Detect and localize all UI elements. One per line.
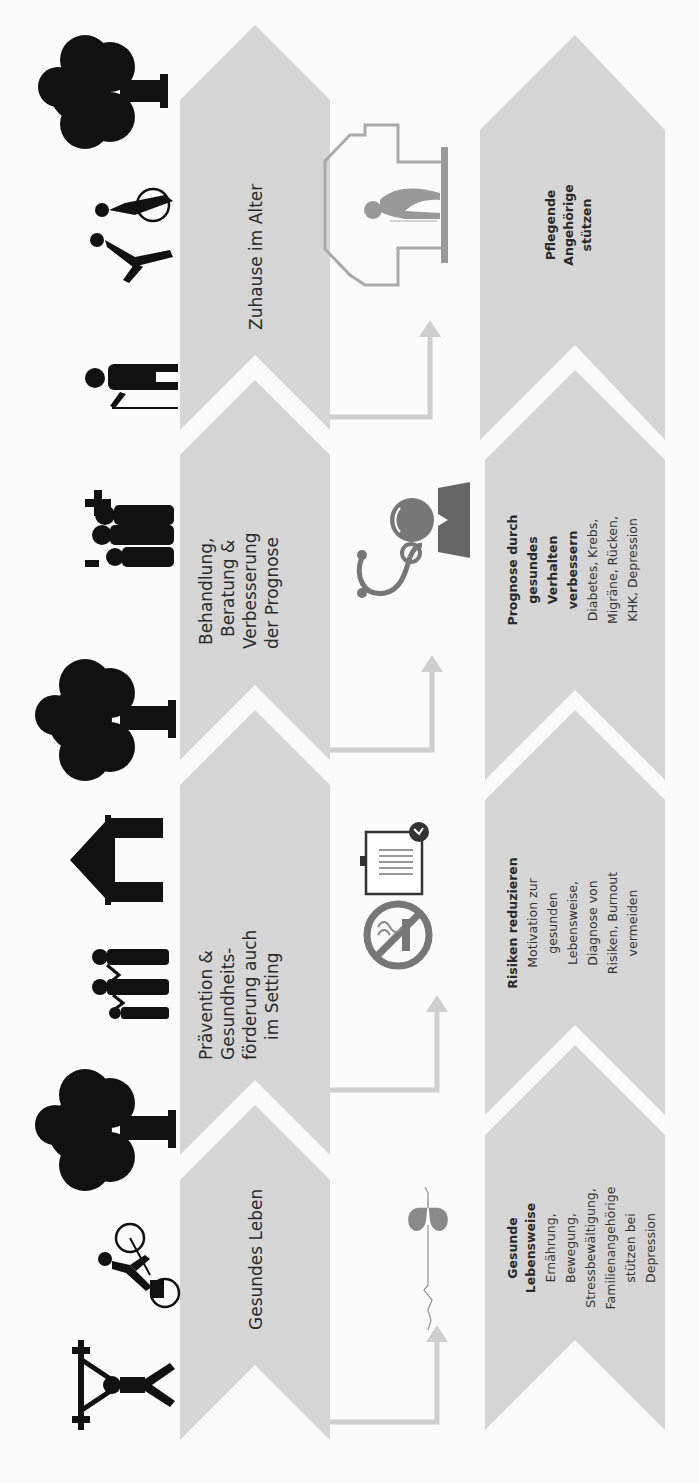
svg-text:stützen bei: stützen bei: [623, 1213, 638, 1282]
svg-text:Gesunde: Gesunde: [505, 1217, 520, 1278]
svg-text:KHK, Depression: KHK, Depression: [625, 518, 640, 622]
svg-text:Beratung &: Beratung &: [218, 540, 238, 637]
arrow-2-head: [426, 995, 448, 1012]
svg-text:Depression: Depression: [643, 1213, 658, 1283]
svg-text:Diagnose von: Diagnose von: [585, 880, 600, 965]
svg-text:Behandlung,: Behandlung,: [196, 538, 216, 645]
svg-text:Familienangehörige: Familienangehörige: [603, 1186, 618, 1309]
no-smoking-icon: [367, 904, 429, 966]
clipboard-check-icon: [360, 822, 429, 894]
svg-text:verbessern: verbessern: [565, 531, 580, 610]
svg-text:Lebensweise,: Lebensweise,: [565, 881, 580, 965]
arrow-4: [330, 335, 430, 417]
elderly-person-icon: [85, 364, 178, 408]
svg-text:Pflegende: Pflegende: [543, 190, 558, 261]
svg-text:Risiken reduzieren: Risiken reduzieren: [505, 857, 520, 988]
svg-text:Migräne, Rücken,: Migräne, Rücken,: [605, 516, 620, 624]
family-icon: [92, 949, 169, 1019]
wheelchair-assist-icon: [90, 189, 173, 283]
arrow-4-head: [419, 320, 441, 337]
house-icon: [70, 815, 163, 905]
svg-text:im Setting: im Setting: [262, 952, 282, 1040]
arrow-3: [330, 670, 432, 750]
stage-4-label: Zuhause im Alter: [246, 184, 266, 330]
svg-text:stützen: stützen: [579, 199, 594, 252]
svg-text:Diabetes, Krebs,: Diabetes, Krebs,: [585, 519, 600, 622]
arrow-1: [330, 1340, 437, 1422]
tree-icon: [35, 1069, 176, 1191]
svg-text:Angehörige: Angehörige: [561, 184, 576, 265]
weightlifter-icon: [72, 1340, 175, 1430]
svg-text:gesunden: gesunden: [545, 892, 560, 954]
cyclist-icon: [98, 1224, 179, 1307]
svg-text:Verbesserung: Verbesserung: [240, 532, 260, 649]
svg-text:Prognose durch: Prognose durch: [505, 515, 520, 626]
svg-text:Prävention &: Prävention &: [196, 950, 216, 1060]
svg-text:förderung auch: förderung auch: [240, 930, 260, 1060]
svg-text:Gesundheits-: Gesundheits-: [218, 948, 238, 1060]
doctor-icon: [390, 482, 470, 558]
tree-icon: [35, 659, 176, 781]
svg-text:der Prognose: der Prognose: [262, 537, 282, 649]
family-medical-icon: [85, 490, 174, 567]
svg-text:Stressbewältigung,: Stressbewältigung,: [583, 1188, 598, 1307]
svg-text:Bewegung,: Bewegung,: [563, 1213, 578, 1283]
svg-text:Motivation zur: Motivation zur: [525, 877, 540, 967]
svg-text:Verhalten: Verhalten: [545, 536, 560, 605]
heartbeat-icon: [408, 1187, 448, 1330]
arrow-2: [330, 1010, 437, 1090]
svg-text:Risiken, Burnout: Risiken, Burnout: [605, 872, 620, 974]
svg-text:Ernährung,: Ernährung,: [543, 1213, 558, 1282]
home-care-icon: [325, 125, 448, 285]
svg-text:gesundes: gesundes: [525, 536, 540, 604]
svg-text:Lebensweise: Lebensweise: [523, 1203, 538, 1293]
svg-text:vermeiden: vermeiden: [625, 890, 640, 957]
arrow-3-head: [421, 655, 443, 672]
stage-1-label: Gesundes Leben: [246, 1189, 266, 1330]
tree-icon: [38, 35, 168, 149]
care-pathway-diagram: Gesundes Leben Prävention & Gesundheits-…: [0, 0, 699, 1483]
stethoscope-icon: [357, 544, 422, 598]
